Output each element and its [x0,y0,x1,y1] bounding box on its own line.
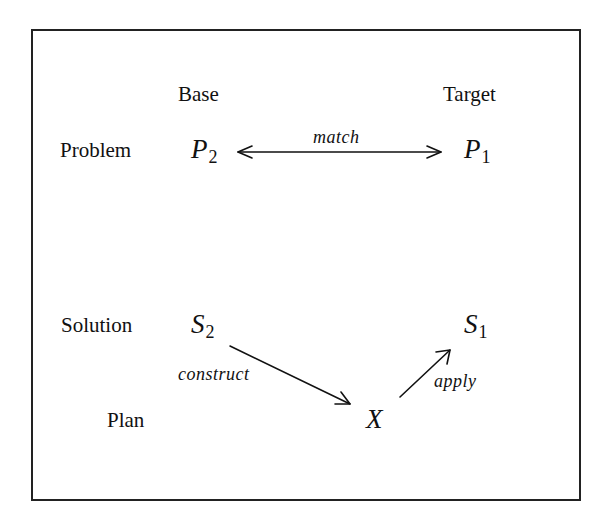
arrows-layer [0,0,611,531]
match-arrow [238,146,441,158]
apply-arrow [400,350,450,397]
construct-arrow [230,346,350,404]
